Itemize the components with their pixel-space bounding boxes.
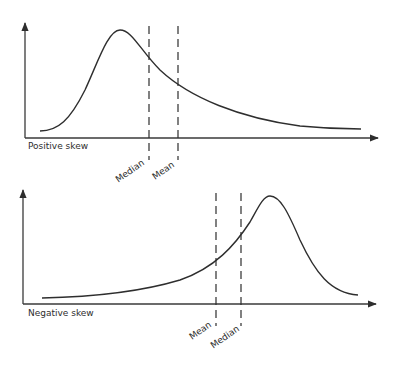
- mean-label-positive: Mean: [150, 159, 176, 181]
- negative-skew-curve: [42, 196, 358, 298]
- negative-skew-panel: Negative skew Mean Median: [23, 190, 376, 350]
- median-label-negative: Median: [209, 323, 242, 350]
- positive-skew-curve: [40, 30, 361, 131]
- skewness-diagram: Positive skew Median Mean Negative skew …: [0, 0, 394, 367]
- median-label-positive: Median: [114, 157, 147, 184]
- mean-label-negative: Mean: [187, 319, 213, 341]
- positive-skew-panel: Positive skew Median Mean: [25, 23, 378, 184]
- positive-skew-caption: Positive skew: [28, 141, 88, 151]
- negative-skew-caption: Negative skew: [28, 308, 94, 318]
